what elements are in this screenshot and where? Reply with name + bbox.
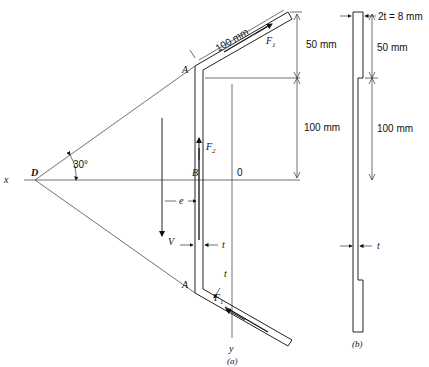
shear-v-label: V (168, 236, 176, 247)
b-thickness-label: t (377, 240, 380, 251)
axis-x-label: x (3, 174, 9, 185)
2t-label: 2t = 8 mm (378, 11, 423, 22)
flange-end-top (288, 12, 292, 19)
origin-label: 0 (237, 167, 243, 178)
force-f1-bottom-arrow (226, 309, 245, 320)
force-f1-top-label: F1 (265, 35, 276, 49)
section-outer (195, 12, 288, 346)
flange-end-bottom (288, 340, 292, 346)
point-d-label: D (30, 167, 38, 178)
figure-a: x D 30° A A B 0 y (a) 100 mm 50 mm 100 m… (3, 10, 340, 366)
web-thickness-label: t (222, 239, 225, 250)
point-a-bottom-label: A (181, 279, 189, 290)
caption-b: (b) (352, 339, 363, 349)
flange-thickness-label: t (224, 268, 227, 279)
b-segment-top-label: 50 mm (377, 42, 408, 53)
eccentricity-label: e (179, 195, 184, 206)
caption-a: (a) (227, 356, 238, 366)
construction-line-top (35, 66, 195, 180)
shear-center-diagram: x D 30° A A B 0 y (a) 100 mm 50 mm 100 m… (0, 0, 429, 367)
figure-b: 2t = 8 mm 50 mm 100 mm t (b) (340, 11, 423, 349)
point-a-top-label: A (181, 64, 189, 75)
axis-y-label: y (228, 343, 234, 354)
web-height-label: 100 mm (304, 122, 340, 133)
shear-flow-bottom (225, 307, 268, 332)
b-segment-mid-label: 100 mm (377, 123, 413, 134)
angle-label: 30° (73, 159, 88, 170)
flange-rise-label: 50 mm (306, 39, 337, 50)
force-f2-label: F2 (205, 141, 216, 155)
section-profile (353, 12, 363, 332)
ext-line (190, 50, 195, 58)
point-b-label: B (192, 167, 198, 178)
